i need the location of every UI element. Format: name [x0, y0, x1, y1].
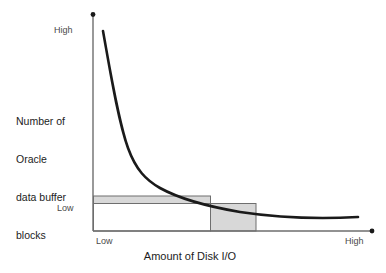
x-axis-arrow-icon [370, 229, 375, 234]
y-axis-tick-high: High [54, 25, 73, 37]
x-axis-tick-low: Low [96, 236, 113, 248]
x-axis-tick-high: High [345, 236, 364, 248]
annotation-baseline-outline [94, 204, 211, 232]
decay-curve [103, 31, 358, 218]
chart-figure: High Low Number of Oracle data buffer bl… [0, 0, 386, 273]
y-axis-title: Number of Oracle data buffer blocks [16, 90, 66, 266]
y-axis-title-line-1: Number of [16, 115, 66, 128]
x-axis-title: Amount of Disk I/O [144, 251, 236, 263]
y-axis-title-line-4: blocks [16, 229, 66, 242]
y-axis-title-line-3: data buffer [16, 191, 66, 204]
y-axis-arrow-icon [91, 12, 96, 17]
y-axis-title-line-2: Oracle [16, 153, 66, 166]
